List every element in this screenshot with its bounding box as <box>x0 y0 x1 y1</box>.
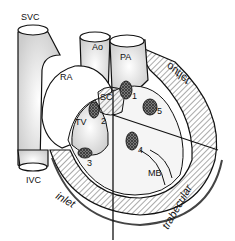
spot-5 <box>143 99 157 115</box>
label-4: 4 <box>138 145 143 155</box>
heart-diagram: SVC IVC Ao PA RA SC TV MB 1 2 3 4 5 inle… <box>0 0 235 241</box>
spot-4 <box>126 132 138 150</box>
inferior-vena-cava <box>18 150 48 171</box>
label-pa: PA <box>120 52 131 62</box>
spot-3 <box>78 148 92 158</box>
label-2: 2 <box>101 116 106 126</box>
label-ra: RA <box>60 72 73 82</box>
label-svc: SVC <box>21 12 40 22</box>
label-mb: MB <box>148 168 162 178</box>
spot-2 <box>89 102 99 118</box>
label-3: 3 <box>87 158 92 168</box>
label-ivc: IVC <box>26 175 42 185</box>
label-5: 5 <box>157 106 162 116</box>
label-1: 1 <box>132 91 137 101</box>
spot-1 <box>120 81 132 99</box>
label-inlet: inlet <box>54 189 78 210</box>
label-tv: TV <box>75 117 87 127</box>
label-sc: SC <box>100 92 113 102</box>
label-ao: Ao <box>92 42 103 52</box>
